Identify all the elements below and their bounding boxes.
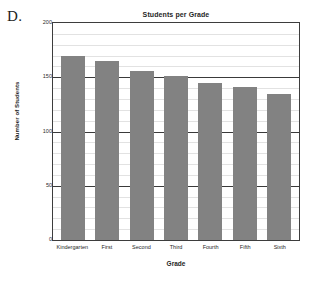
y-tick-label: 150 — [6, 73, 52, 79]
x-tick-label: Fifth — [228, 244, 263, 256]
bar[interactable] — [198, 83, 222, 240]
bar-slot — [227, 23, 261, 240]
bar[interactable] — [267, 94, 291, 240]
bar[interactable] — [233, 87, 257, 240]
chart-title: Students per Grade — [52, 11, 300, 18]
figure-panel: D. Students per Grade Number of Students… — [0, 0, 315, 283]
x-tick-label: First — [90, 244, 125, 256]
x-tick-label: Sixth — [262, 244, 297, 256]
bar[interactable] — [61, 56, 85, 240]
bar-slot — [159, 23, 193, 240]
y-tick-label: 200 — [6, 19, 52, 25]
x-axis-title: Grade — [52, 260, 300, 267]
bar[interactable] — [164, 76, 188, 240]
bar[interactable] — [95, 61, 119, 240]
y-axis-ticks: 200150100500 — [0, 22, 52, 241]
bar-slot — [262, 23, 296, 240]
x-tick-label: Fourth — [193, 244, 228, 256]
bar-slot — [193, 23, 227, 240]
bar-slot — [56, 23, 90, 240]
y-tick-label: 0 — [6, 236, 52, 242]
bar-slot — [90, 23, 124, 240]
x-axis-tick-labels: KindergartenFirstSecondThirdFourthFifthS… — [52, 244, 300, 256]
x-tick-label: Second — [124, 244, 159, 256]
y-tick-label: 50 — [6, 182, 52, 188]
x-tick-label: Third — [159, 244, 194, 256]
bar[interactable] — [130, 71, 154, 240]
bar-slot — [125, 23, 159, 240]
plot-area — [52, 22, 300, 241]
bar-series — [53, 23, 299, 240]
x-tick-label: Kindergarten — [55, 244, 90, 256]
y-tick-label: 100 — [6, 128, 52, 134]
